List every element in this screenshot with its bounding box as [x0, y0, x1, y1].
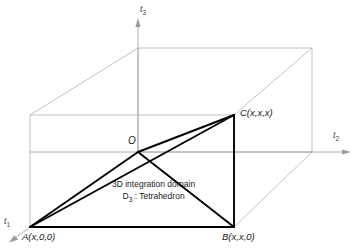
axis-arrow-t2: [342, 149, 351, 154]
vertex-label-B: B(x,x,0): [222, 232, 255, 242]
axis-label-t1-sub: 1: [7, 221, 11, 228]
edge-A-C: [30, 115, 234, 227]
axis-arrowheads: [9, 18, 351, 243]
caption-line-2: D3 : Tetrahedron: [112, 190, 195, 204]
figure-root: t3 t2 t1 O A(x,0,0) B(x,x,0) C(x,x,x) 3D…: [0, 0, 359, 252]
box-edge-depth-bottom-right: [234, 152, 312, 227]
axis-arrow-t3: [135, 18, 140, 27]
tetrahedron-edges: [30, 115, 234, 227]
caption-domain-text: : Tetrahedron: [132, 191, 184, 201]
axis-label-t3-sub: 3: [143, 9, 147, 16]
edge-O-C: [138, 115, 234, 152]
vertex-label-O: O: [128, 136, 136, 146]
axes-group: [12, 22, 347, 240]
axis-label-t2: t2: [333, 131, 339, 142]
vertex-label-A: A(x,0,0): [22, 232, 55, 242]
box-edge-depth-top-left: [30, 48, 138, 115]
diagram-caption: 3D integration domain D3 : Tetrahedron: [112, 178, 195, 204]
caption-line-1: 3D integration domain: [112, 179, 195, 189]
tetrahedron-diagram: [0, 0, 359, 252]
box-edge-depth-top-right: [234, 48, 312, 115]
axis-label-t3: t3: [140, 5, 146, 16]
axis-label-t2-sub: 2: [336, 135, 340, 142]
axis-label-t1: t1: [4, 217, 10, 228]
vertex-label-C: C(x,x,x): [240, 108, 273, 118]
